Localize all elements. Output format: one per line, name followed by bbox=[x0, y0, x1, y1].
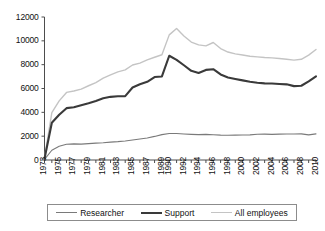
legend-item-support: Support bbox=[141, 208, 195, 218]
line-chart-plot bbox=[0, 0, 325, 231]
x-tick-label: 1992 bbox=[178, 157, 188, 175]
legend-label-support: Support bbox=[165, 208, 195, 218]
y-tick-label: 0 bbox=[0, 155, 39, 165]
x-tick-label: 1987 bbox=[141, 157, 151, 175]
x-tick-label: 1975 bbox=[53, 157, 63, 175]
x-tick-label: 2000 bbox=[236, 157, 246, 175]
x-tick-label: 1994 bbox=[192, 157, 202, 175]
chart-legend: Researcher Support All employees bbox=[47, 204, 297, 221]
x-tick-label: 2008 bbox=[295, 157, 305, 175]
x-tick-label: 2010 bbox=[310, 157, 320, 175]
y-tick-label: 12000 bbox=[0, 12, 39, 22]
x-tick-label: 1981 bbox=[97, 157, 107, 175]
legend-line-support-icon bbox=[141, 212, 162, 214]
legend-line-researcher-icon bbox=[56, 212, 77, 213]
x-tick-label: 1973 bbox=[38, 157, 48, 175]
legend-item-researcher: Researcher bbox=[56, 208, 124, 218]
y-tick-label: 8000 bbox=[0, 59, 39, 69]
x-tick-label: 1979 bbox=[82, 157, 92, 175]
x-tick-label: 1990 bbox=[163, 157, 173, 175]
legend-label-researcher: Researcher bbox=[80, 208, 124, 218]
y-tick-label: 2000 bbox=[0, 131, 39, 141]
legend-item-all-employees: All employees bbox=[211, 208, 288, 218]
x-tick-label: 2002 bbox=[251, 157, 261, 175]
x-tick-label: 2004 bbox=[266, 157, 276, 175]
x-tick-label: 1985 bbox=[126, 157, 136, 175]
x-tick-label: 1983 bbox=[111, 157, 121, 175]
x-tick-label: 2006 bbox=[280, 157, 290, 175]
x-tick-label: 1996 bbox=[207, 157, 217, 175]
y-tick-label: 4000 bbox=[0, 107, 39, 117]
x-tick-label: 1977 bbox=[67, 157, 77, 175]
x-tick-label: 1998 bbox=[222, 157, 232, 175]
chart-container: 020004000600080001000012000 197319751977… bbox=[0, 0, 325, 231]
y-tick-label: 10000 bbox=[0, 35, 39, 45]
y-tick-label: 6000 bbox=[0, 83, 39, 93]
legend-label-all-employees: All employees bbox=[235, 208, 288, 218]
legend-line-all-employees-icon bbox=[211, 212, 232, 213]
